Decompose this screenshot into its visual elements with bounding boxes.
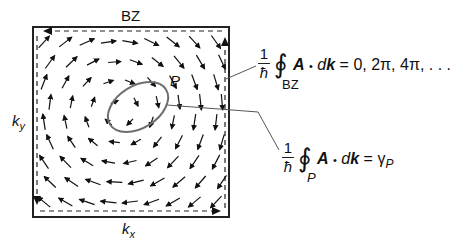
field-arrow (192, 75, 198, 90)
field-arrow (131, 139, 141, 145)
field-arrow (64, 115, 67, 128)
field-arrow (134, 98, 138, 106)
field-arrow (47, 135, 54, 150)
equation-bz: 1 ħ ∮ BZ A • dk = 0, 2π, 4π, . . . (258, 46, 437, 96)
ky-axis-label: ky (12, 112, 25, 129)
field-arrow (107, 182, 123, 183)
field-arrow (189, 36, 200, 48)
field-arrow (109, 141, 120, 142)
field-arrow (86, 179, 101, 184)
kx-subscript: x (130, 228, 136, 240)
field-arrow (40, 155, 49, 168)
field-arrow (59, 198, 73, 206)
field-arrow (195, 176, 205, 188)
field-arrow (166, 198, 180, 206)
field-arrow (49, 94, 51, 109)
field-arrow (88, 138, 97, 145)
eq-bz-rhs: = 0, 2π, 4π, . . . (340, 56, 451, 73)
field-arrow (211, 36, 220, 49)
brillouin-zone-frame (33, 27, 229, 217)
field-arrow (80, 39, 95, 46)
field-arrow (219, 55, 226, 69)
field-arrow (66, 57, 77, 67)
eq-p-frac-num: 1 (282, 140, 294, 155)
path-p-ellipse (99, 72, 177, 143)
field-arrow (190, 155, 199, 168)
eq-bz-k: k (326, 56, 335, 73)
field-arrow (128, 180, 143, 184)
field-arrow (91, 97, 94, 107)
field-arrow (60, 156, 71, 167)
field-arrow (122, 41, 137, 44)
field-arrow (101, 41, 116, 43)
eq-p-d: d (341, 150, 350, 167)
field-arrow (70, 96, 72, 108)
eq-bz-dot: • (309, 60, 313, 72)
field-arrow (154, 137, 162, 147)
field-arrow (146, 158, 158, 166)
field-arrow (68, 136, 76, 147)
eq-bz-subscript: BZ (282, 77, 299, 92)
field-arrow (81, 158, 93, 165)
field-arrow (215, 114, 217, 130)
connector-bz-equation (226, 66, 256, 79)
field-arrow (167, 37, 180, 47)
kx-axis-label: kx (122, 220, 135, 237)
field-arrow (65, 178, 78, 187)
eq-bz-integral: ∮ (274, 49, 288, 79)
field-arrow (83, 78, 91, 87)
field-arrow (79, 199, 94, 204)
ky-subscript: y (20, 120, 26, 132)
field-arrow (102, 161, 115, 163)
field-arrow (172, 115, 175, 128)
eq-p-integral: ∮ (298, 143, 312, 173)
field-arrow (124, 161, 137, 164)
eq-p-A: A (317, 150, 329, 167)
field-arrow (130, 60, 142, 65)
eq-p-frac-den: ħ (282, 159, 294, 174)
field-arrow (122, 201, 138, 203)
field-arrow (44, 177, 56, 188)
field-arrow (87, 59, 99, 65)
field-arrow (176, 135, 183, 149)
field-arrow (196, 55, 204, 69)
eq-p-subscript: P (307, 170, 316, 185)
kx-symbol: k (122, 220, 130, 237)
eq-p-dot: • (333, 154, 337, 166)
field-arrow (212, 155, 219, 169)
eq-bz-frac-num: 1 (258, 46, 270, 61)
field-arrow (173, 177, 185, 187)
path-label: P (170, 72, 180, 89)
field-arrow (43, 114, 45, 130)
field-arrow (59, 37, 72, 47)
field-arrow (41, 75, 47, 90)
field-arrow (198, 135, 204, 150)
field-arrow (62, 76, 69, 88)
eq-bz-A: A (293, 56, 305, 73)
field-arrow (188, 197, 200, 207)
field-arrow (220, 134, 225, 149)
eq-bz-frac-den: ħ (258, 65, 270, 80)
field-arrow (214, 74, 219, 89)
field-arrow (144, 199, 159, 204)
connector-path-equation (167, 105, 279, 150)
field-arrow (151, 178, 165, 186)
field-arrow (108, 62, 121, 63)
field-arrow (156, 96, 159, 108)
field-arrow (38, 197, 50, 207)
field-arrow (211, 196, 222, 208)
eq-p-k: k (350, 150, 359, 167)
field-arrow (104, 80, 114, 83)
field-arrow (127, 119, 133, 125)
eq-bz-d: d (317, 56, 326, 73)
eq-p-rhs-sub: P (385, 157, 393, 171)
eq-p-body: A • dk = γP (317, 150, 393, 168)
field-arrow (39, 36, 50, 48)
field-arrow (193, 114, 195, 130)
field-arrow (144, 39, 158, 46)
bz-label: BZ (121, 7, 140, 24)
eq-bz-body: A • dk = 0, 2π, 4π, . . . (293, 56, 451, 74)
field-arrow (152, 58, 163, 67)
equation-path: 1 ħ ∮ P A • dk = γP (282, 140, 437, 190)
